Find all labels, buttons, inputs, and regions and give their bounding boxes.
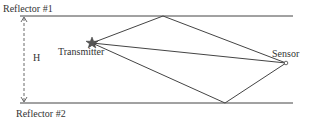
diagram-canvas (0, 0, 321, 124)
sensor-circle-icon (284, 61, 288, 65)
direct-path (92, 43, 286, 63)
reflector-1-label: Reflector #1 (3, 3, 53, 14)
transmitter-label: Transmitter (58, 46, 104, 57)
sensor-label: Sensor (272, 48, 299, 59)
reflector-2-label: Reflector #2 (16, 108, 66, 119)
height-label: H (33, 52, 40, 63)
